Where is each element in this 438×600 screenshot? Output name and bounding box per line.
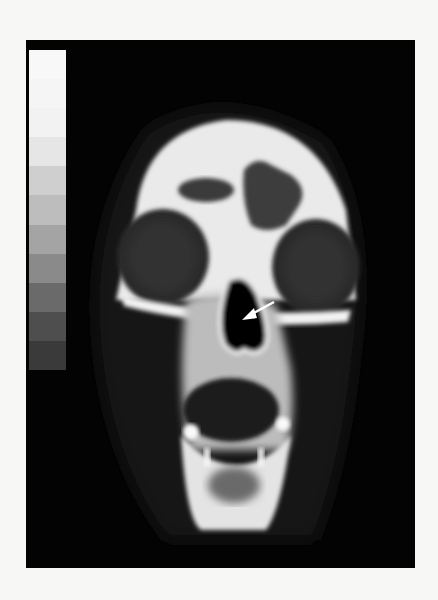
frontal-sinus-left (178, 178, 234, 202)
ct-scan-panel (26, 40, 415, 568)
tooth-left (183, 424, 199, 440)
tooth-right (276, 417, 290, 431)
skull-ct-image (26, 40, 415, 568)
